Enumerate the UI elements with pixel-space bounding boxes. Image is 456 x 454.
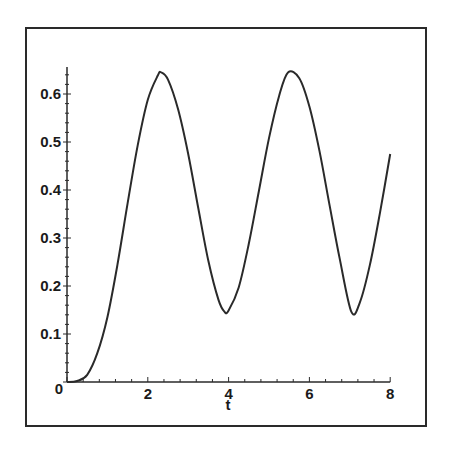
- line-chart: 246800.10.20.30.40.50.6 t: [0, 0, 456, 454]
- data-line: [67, 71, 390, 382]
- tick-labels: 246800.10.20.30.40.50.6: [40, 85, 394, 402]
- x-tick-label: 8: [386, 385, 394, 402]
- y-tick-label: 0.3: [40, 229, 61, 246]
- axes: [67, 67, 390, 382]
- ticks: [63, 75, 390, 382]
- x-tick-label: 6: [305, 385, 313, 402]
- x-axis-label: t: [226, 396, 231, 413]
- y-tick-label: 0.6: [40, 85, 61, 102]
- origin-label: 0: [55, 380, 63, 397]
- y-tick-label: 0.1: [40, 325, 61, 342]
- y-tick-label: 0.4: [40, 181, 62, 198]
- y-tick-label: 0.2: [40, 277, 61, 294]
- x-tick-label: 2: [144, 385, 152, 402]
- y-tick-label: 0.5: [40, 133, 61, 150]
